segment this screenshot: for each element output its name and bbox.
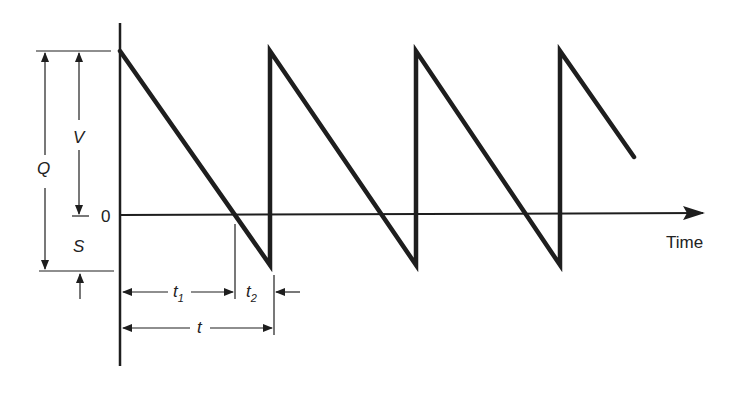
t1-label: t1 (173, 282, 184, 304)
time-axis-label: Time (666, 233, 703, 252)
t2-label: t2 (246, 282, 257, 304)
time-axis (120, 213, 703, 215)
q-label: Q (37, 159, 50, 178)
s-label: S (73, 237, 85, 256)
inventory-waveform (120, 51, 634, 265)
t-label: t (197, 318, 203, 337)
zero-label: 0 (101, 207, 110, 226)
sawtooth-diagram: Q V 0 S t1 t2 t Time (0, 0, 747, 395)
v-label: V (73, 128, 86, 147)
